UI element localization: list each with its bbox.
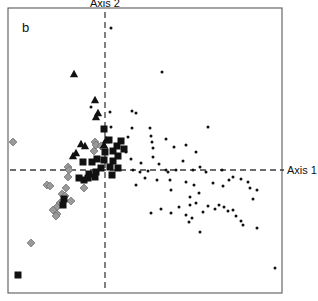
data-point bbox=[188, 221, 191, 224]
data-point bbox=[147, 170, 150, 173]
data-point bbox=[131, 110, 134, 113]
data-point bbox=[101, 126, 108, 133]
data-point bbox=[135, 184, 138, 187]
axis-2-label: Axis 2 bbox=[90, 0, 120, 9]
data-point bbox=[173, 146, 176, 149]
data-point bbox=[110, 126, 113, 129]
data-point bbox=[192, 169, 195, 172]
data-point bbox=[221, 169, 224, 172]
scatter-plot-svg: b Axis 2 Axis 1 bbox=[0, 0, 318, 301]
data-point bbox=[185, 214, 188, 217]
data-point bbox=[185, 144, 188, 147]
data-point bbox=[149, 127, 152, 130]
data-point bbox=[170, 212, 173, 215]
data-point bbox=[135, 112, 138, 115]
data-point bbox=[223, 206, 226, 209]
data-point bbox=[256, 189, 259, 192]
data-point bbox=[222, 185, 225, 188]
data-point bbox=[207, 205, 210, 208]
ordination-scatter-figure: b Axis 2 Axis 1 bbox=[0, 0, 318, 301]
data-point bbox=[89, 159, 96, 166]
data-point bbox=[240, 178, 243, 181]
data-point bbox=[144, 177, 147, 180]
data-point bbox=[214, 208, 217, 211]
data-point bbox=[152, 156, 155, 159]
data-point bbox=[191, 217, 194, 220]
data-point bbox=[109, 172, 116, 179]
data-point bbox=[169, 179, 172, 182]
data-point bbox=[151, 141, 154, 144]
data-point bbox=[102, 149, 109, 156]
data-point bbox=[61, 196, 68, 203]
data-point bbox=[140, 162, 143, 165]
data-point bbox=[247, 181, 250, 184]
data-point bbox=[235, 215, 238, 218]
plot-frame bbox=[8, 8, 282, 293]
data-point bbox=[170, 189, 173, 192]
data-point bbox=[130, 158, 133, 161]
data-point bbox=[121, 146, 128, 153]
data-point bbox=[109, 111, 112, 114]
data-point bbox=[240, 220, 243, 223]
data-point bbox=[139, 171, 142, 174]
data-point bbox=[110, 158, 117, 165]
data-point bbox=[152, 147, 155, 150]
data-point bbox=[107, 164, 114, 171]
data-point bbox=[92, 174, 99, 181]
data-point bbox=[232, 176, 235, 179]
data-point bbox=[232, 209, 235, 212]
data-point bbox=[205, 171, 208, 174]
data-point bbox=[15, 272, 22, 279]
data-point bbox=[165, 138, 168, 141]
data-point bbox=[189, 204, 192, 207]
data-point bbox=[195, 151, 198, 154]
data-point bbox=[156, 179, 159, 182]
data-point bbox=[252, 198, 255, 201]
data-point bbox=[242, 224, 245, 227]
data-point bbox=[202, 211, 205, 214]
data-point bbox=[274, 267, 277, 270]
data-point bbox=[127, 136, 130, 139]
data-point bbox=[256, 227, 259, 230]
data-point bbox=[160, 208, 163, 211]
data-point bbox=[228, 179, 231, 182]
data-point bbox=[249, 187, 252, 190]
data-point bbox=[118, 138, 125, 145]
data-point bbox=[150, 212, 153, 215]
data-point bbox=[193, 184, 196, 187]
data-point bbox=[60, 202, 67, 209]
data-point bbox=[101, 157, 108, 164]
data-point bbox=[150, 135, 153, 138]
data-point bbox=[132, 169, 135, 172]
data-point bbox=[81, 177, 88, 184]
data-point bbox=[110, 27, 113, 30]
data-point bbox=[189, 196, 192, 199]
panel-label-b: b bbox=[22, 20, 29, 35]
data-point bbox=[199, 231, 202, 234]
axis-1-label: Axis 1 bbox=[287, 164, 317, 176]
data-point bbox=[115, 165, 122, 172]
data-point bbox=[199, 166, 202, 169]
data-point bbox=[195, 202, 198, 205]
data-point bbox=[158, 163, 161, 166]
data-point bbox=[218, 204, 221, 207]
data-point bbox=[182, 160, 185, 163]
data-point bbox=[167, 171, 170, 174]
data-point bbox=[106, 137, 113, 144]
data-point bbox=[198, 192, 201, 195]
data-point bbox=[207, 126, 210, 129]
data-point bbox=[212, 182, 215, 185]
data-point bbox=[90, 106, 93, 109]
data-point bbox=[80, 159, 87, 166]
data-point bbox=[175, 169, 178, 172]
data-point bbox=[178, 206, 181, 209]
data-point bbox=[131, 127, 134, 130]
data-point bbox=[185, 181, 188, 184]
data-point bbox=[227, 210, 230, 213]
data-point bbox=[161, 71, 164, 74]
